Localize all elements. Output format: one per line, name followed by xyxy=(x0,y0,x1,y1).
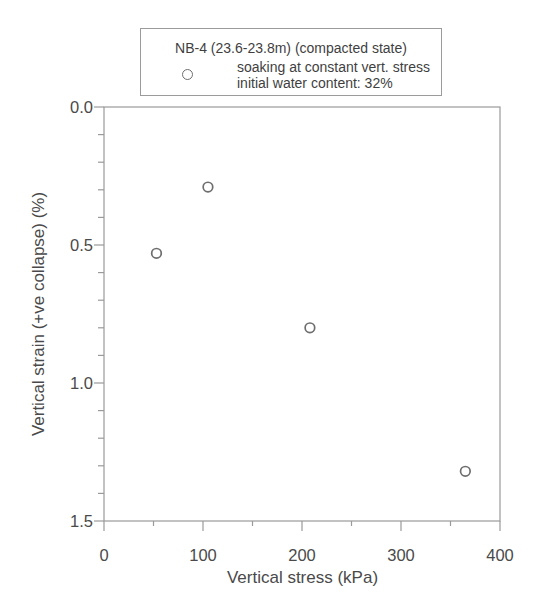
data-point xyxy=(305,323,315,333)
y-tick-label: 1.5 xyxy=(70,512,93,530)
x-axis-title: Vertical stress (kPa) xyxy=(104,568,501,588)
y-tick-label: 1.0 xyxy=(70,374,93,392)
data-point xyxy=(461,467,471,477)
y-tick-label: 0.0 xyxy=(70,98,93,116)
legend-entry-line2: initial water content: 32% xyxy=(237,76,430,92)
data-point xyxy=(152,248,162,258)
x-tick-label: 400 xyxy=(486,546,514,564)
scatter-figure: 01002003004000.00.51.01.5 NB-4 (23.6-23.… xyxy=(0,0,541,608)
x-tick-label: 200 xyxy=(288,546,316,564)
y-axis-title: Vertical strain (+ve collapse) (%) xyxy=(29,192,49,436)
legend-box: NB-4 (23.6-23.8m) (compacted state) soak… xyxy=(140,28,442,96)
x-tick-label: 300 xyxy=(387,546,415,564)
y-tick-label: 0.5 xyxy=(70,236,93,254)
x-tick-label: 100 xyxy=(189,546,217,564)
x-tick-label: 0 xyxy=(99,546,108,564)
open-circle-marker-icon xyxy=(182,69,193,80)
legend-entry-line1: soaking at constant vert. stress xyxy=(237,60,430,76)
legend-title: NB-4 (23.6-23.8m) (compacted state) xyxy=(141,40,441,57)
data-point xyxy=(203,182,213,192)
plot-border xyxy=(104,107,500,521)
legend-entry: soaking at constant vert. stress initial… xyxy=(237,60,430,91)
